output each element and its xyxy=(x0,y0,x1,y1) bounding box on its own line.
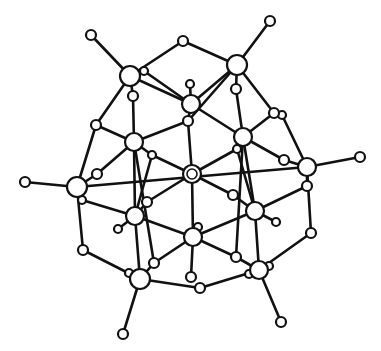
ball-and-stick-diagram xyxy=(0,0,381,351)
atom-large-A3 xyxy=(182,95,200,113)
atom-bridge-B24 xyxy=(195,283,205,293)
atom-terminal-T9 xyxy=(272,218,280,226)
atom-bridge-B19 xyxy=(149,258,159,268)
atom-large-A10 xyxy=(246,202,264,220)
atoms-layer xyxy=(20,16,365,339)
atom-large-A1 xyxy=(120,66,140,86)
atom-bridge-B9 xyxy=(148,151,156,159)
atom-large-A5 xyxy=(234,128,252,146)
atom-terminal-T3 xyxy=(20,177,30,187)
atom-bridge-B20 xyxy=(231,252,241,262)
atom-large-A13 xyxy=(250,261,268,279)
atom-bridge-B18 xyxy=(78,245,88,255)
atom-bridge-B23 xyxy=(186,272,196,282)
atom-bridge-B10 xyxy=(92,169,102,179)
atom-bridge-B7 xyxy=(269,108,279,118)
molecular-structure-figure xyxy=(0,0,381,351)
atom-large-A9 xyxy=(126,207,144,225)
atom-bridge-B15 xyxy=(228,190,238,200)
atom-bridge-B3 xyxy=(128,91,138,101)
atom-large-A11 xyxy=(184,228,202,246)
atom-large-A12 xyxy=(130,269,150,289)
atom-terminal-T6 xyxy=(276,317,286,327)
atom-bridge-B4 xyxy=(231,84,241,94)
atom-bridge-B21 xyxy=(306,228,316,238)
atom-bridge-B12 xyxy=(279,155,289,165)
atom-bridge-B1 xyxy=(178,36,188,46)
atom-terminal-T2 xyxy=(265,16,275,26)
atom-bridge-B6 xyxy=(183,116,193,126)
atom-large-A7 xyxy=(67,177,87,197)
atom-terminal-T7 xyxy=(186,80,194,88)
atom-terminal-T8 xyxy=(114,225,122,233)
atom-large-A8 xyxy=(298,158,316,176)
atom-bridge-B5 xyxy=(91,120,101,130)
atom-large-A2 xyxy=(227,55,247,75)
atom-bridge-B14 xyxy=(142,197,152,207)
atom-terminal-T4 xyxy=(355,152,365,162)
atom-bridge-B2 xyxy=(140,67,148,75)
atom-terminal-T5 xyxy=(118,329,128,339)
atom-large-A6 xyxy=(183,165,201,183)
atom-bridge-B17 xyxy=(302,181,312,191)
atom-terminal-T1 xyxy=(86,30,96,40)
atom-large-A4 xyxy=(125,133,143,151)
